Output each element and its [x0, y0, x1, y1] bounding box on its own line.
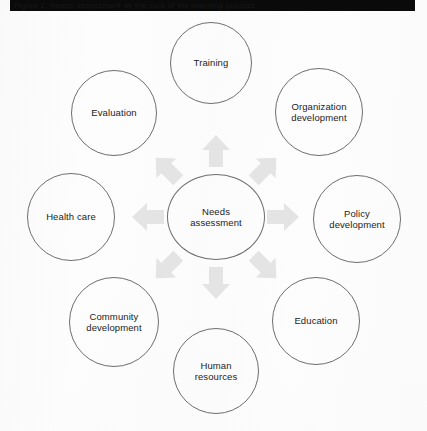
- arrow-east-icon: [266, 202, 300, 232]
- node-policy-development[interactable]: Policy development: [313, 175, 401, 263]
- node-label-organization-development: Organization development: [291, 101, 347, 124]
- node-needs-assessment[interactable]: Needs assessment: [167, 174, 265, 260]
- header-black-bar: Figure 1. Needs assessment as the core o…: [10, 0, 415, 11]
- node-label-education: Education: [294, 315, 337, 327]
- arrow-north-icon: [201, 134, 231, 168]
- header-bar-text: Figure 1. Needs assessment as the core o…: [14, 0, 410, 11]
- node-label-health-care: Health care: [46, 211, 96, 223]
- arrow-south-icon: [201, 266, 231, 300]
- node-training[interactable]: Training: [170, 22, 252, 104]
- node-label-evaluation: Evaluation: [91, 107, 136, 119]
- node-label-needs-assessment: Needs assessment: [190, 206, 242, 229]
- node-health-care[interactable]: Health care: [27, 173, 115, 261]
- node-organization-development[interactable]: Organization development: [275, 68, 363, 156]
- node-label-training: Training: [194, 57, 229, 69]
- arrow-west-icon: [131, 202, 165, 232]
- arrow-southwest-icon: [144, 244, 189, 289]
- node-label-community-development: Community development: [86, 311, 142, 334]
- node-label-human-resources: Human resources: [195, 360, 238, 383]
- node-evaluation[interactable]: Evaluation: [71, 70, 157, 156]
- diagram-canvas: Figure 1. Needs assessment as the core o…: [0, 0, 427, 431]
- node-human-resources[interactable]: Human resources: [173, 328, 259, 414]
- node-education[interactable]: Education: [272, 277, 360, 365]
- node-label-policy-development: Policy development: [329, 208, 385, 231]
- arrow-southeast-icon: [242, 244, 287, 289]
- node-community-development[interactable]: Community development: [69, 277, 159, 367]
